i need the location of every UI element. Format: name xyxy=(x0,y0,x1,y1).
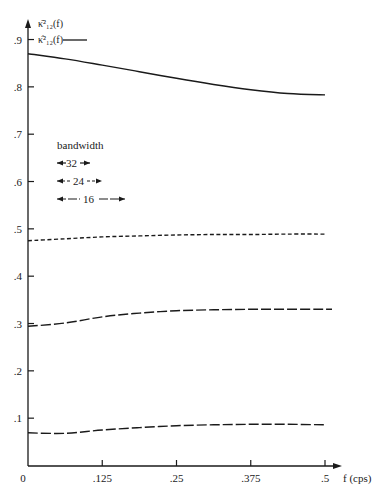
bandwidth-legend-title: bandwidth xyxy=(57,139,104,151)
y-axis-arrow-icon xyxy=(25,19,31,28)
bandwidth-32-span: 32 xyxy=(57,157,90,169)
y-tick-label: .1 xyxy=(14,412,22,424)
y-tick-label: .9 xyxy=(14,34,23,46)
data-curves xyxy=(28,54,332,434)
series-line-3 xyxy=(28,309,332,326)
x-axis xyxy=(28,463,342,469)
y-axis xyxy=(25,19,31,466)
y-tick-label: .2 xyxy=(14,365,22,377)
series-line-4 xyxy=(28,424,325,433)
svg-text:32: 32 xyxy=(66,157,77,169)
x-tick-label: 0 xyxy=(20,472,26,484)
y-tick-label: .8 xyxy=(14,81,23,93)
x-tick-label: .25 xyxy=(170,472,184,484)
svg-text:16: 16 xyxy=(83,193,95,205)
y-tick-label: .7 xyxy=(14,128,23,140)
coherency-chart: .1.2.3.4.5.6.7.8.9 0.125.25.375.5 f (cps… xyxy=(0,0,383,495)
x-tick-label: .125 xyxy=(93,472,113,484)
x-axis-ticks: 0.125.25.375.5 xyxy=(20,460,329,484)
bandwidth-legend: bandwidth 32 24 16 xyxy=(57,139,125,205)
x-axis-label: f (cps) xyxy=(343,472,372,485)
svg-text:24: 24 xyxy=(73,175,85,187)
y-axis-label-top: κ̄²₁₂(f) xyxy=(38,18,63,30)
series-line-1 xyxy=(28,54,325,95)
y-tick-label: .3 xyxy=(14,318,23,330)
bandwidth-16-span: 16 xyxy=(57,193,125,205)
y-tick-label: .4 xyxy=(14,270,23,282)
x-tick-label: .5 xyxy=(321,472,330,484)
series-line-2 xyxy=(28,234,325,241)
bandwidth-24-span: 24 xyxy=(57,175,102,187)
y-axis-label-second: κ̂²₁₂(f) xyxy=(38,34,63,46)
y-axis-ticks: .1.2.3.4.5.6.7.8.9 xyxy=(14,34,34,425)
x-tick-label: .375 xyxy=(241,472,261,484)
y-tick-label: .6 xyxy=(14,176,23,188)
x-axis-arrow-icon xyxy=(333,463,342,469)
y-tick-label: .5 xyxy=(14,223,23,235)
